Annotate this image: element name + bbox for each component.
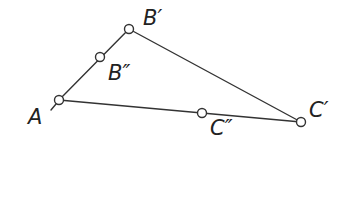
label-c-prime: C′	[309, 100, 328, 121]
label-a: A	[28, 107, 42, 128]
triangle-diagram	[0, 0, 348, 210]
a-prime-tick	[51, 104, 56, 110]
point-a	[55, 96, 64, 105]
point-b-prime	[125, 25, 134, 34]
point-c-double-prime	[198, 109, 207, 118]
segment-a-cprime	[59, 100, 301, 122]
label-b-prime: B′	[143, 8, 162, 29]
label-c-double-prime: C″	[210, 118, 233, 139]
point-b-double-prime	[96, 53, 105, 62]
point-c-prime	[297, 118, 306, 127]
diagram-canvas: A B′ B″ C″ C′	[0, 0, 348, 210]
label-b-double-prime: B″	[108, 63, 130, 84]
